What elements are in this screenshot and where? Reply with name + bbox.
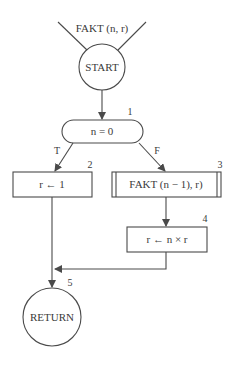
entry-label: FAKT (n, r) <box>76 22 129 35</box>
arrow-false-branch <box>139 143 165 171</box>
multiply-label: r ← n × r <box>146 233 187 245</box>
decision-label: n = 0 <box>91 125 114 137</box>
assign-one-number: 2 <box>88 159 93 170</box>
multiply-number: 4 <box>203 213 208 224</box>
return-label: RETURN <box>30 311 74 323</box>
multiply-node: r ← n × r 4 <box>127 213 208 252</box>
decision-number: 1 <box>128 106 133 117</box>
return-number: 5 <box>68 277 73 288</box>
flowchart-canvas: FAKT (n, r) START n = 0 1 T F r ← 1 2 FA… <box>0 0 235 370</box>
arrow-multiply-to-merge <box>55 252 166 269</box>
start-label: START <box>85 61 119 73</box>
assign-one-node: r ← 1 2 <box>13 159 93 197</box>
assign-one-label: r ← 1 <box>39 178 65 190</box>
false-label: F <box>154 145 160 156</box>
recursive-call-number: 3 <box>218 159 223 170</box>
return-node: RETURN 5 <box>23 277 81 346</box>
true-label: T <box>54 145 60 156</box>
recursive-call-node: FAKT (n − 1), r) 3 <box>112 159 223 197</box>
recursive-call-label: FAKT (n − 1), r) <box>129 178 203 191</box>
start-node: START <box>79 44 125 90</box>
